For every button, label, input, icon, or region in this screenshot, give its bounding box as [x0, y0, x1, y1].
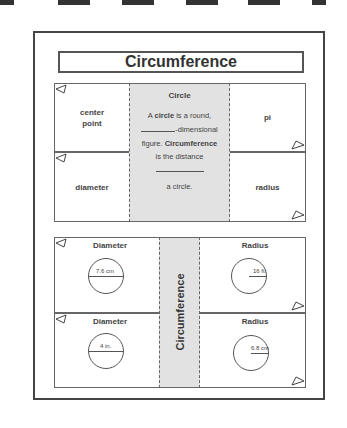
corner-tab-icon: [55, 84, 67, 94]
measure-label: 7.6 cm: [96, 268, 114, 274]
flap-label: pi: [264, 113, 271, 122]
corner-tab-icon: [55, 238, 67, 248]
flap-heading: Radius: [210, 317, 300, 326]
flap-heading: Diameter: [70, 241, 150, 250]
definition-line: A circle is a round,: [130, 110, 229, 121]
radius-line: [251, 353, 268, 354]
corner-tab-icon: [291, 376, 305, 386]
page-title: Circumference: [58, 51, 304, 73]
measure-label: 4 in.: [100, 343, 111, 349]
diameter-line: [89, 351, 123, 352]
radius-line: [249, 276, 266, 277]
corner-tab-icon: [55, 314, 67, 324]
flap-heading: Diameter: [70, 317, 150, 326]
circumference-spine: Circumference: [159, 237, 200, 388]
definition-line: -dimensional: [130, 124, 229, 135]
circle-diagram: 6.8 cm: [233, 335, 269, 371]
fill-in-blank[interactable]: [156, 171, 204, 172]
circle-diagram: 16 ft.: [231, 258, 267, 294]
measure-label: 16 ft.: [253, 268, 266, 274]
top-edge-marks: [0, 0, 347, 6]
flap-label: diameter: [75, 183, 108, 192]
circle-diagram: 7.6 cm: [88, 258, 124, 294]
measure-label: 6.8 cm: [251, 345, 269, 351]
definition-line: figure. Circumference: [130, 138, 229, 149]
definition-line: is the distance: [130, 151, 229, 162]
definition-line: a circle.: [130, 181, 229, 192]
circle-definition-panel: Circle A circle is a round, -dimensional…: [129, 83, 230, 222]
flap-label: center point: [80, 107, 104, 129]
flap-heading: Radius: [210, 241, 300, 250]
diameter-line: [89, 276, 123, 277]
circle-diagram: 4 in.: [88, 333, 124, 369]
definition-line: [130, 164, 229, 175]
panel-heading: Circle: [130, 90, 229, 101]
corner-tab-icon: [291, 301, 305, 311]
flap-label: radius: [255, 183, 279, 192]
spine-label: Circumference: [174, 262, 186, 362]
corner-tab-icon: [55, 153, 67, 163]
corner-tab-icon: [291, 210, 305, 220]
fill-in-blank[interactable]: [141, 131, 175, 132]
corner-tab-icon: [291, 140, 305, 150]
